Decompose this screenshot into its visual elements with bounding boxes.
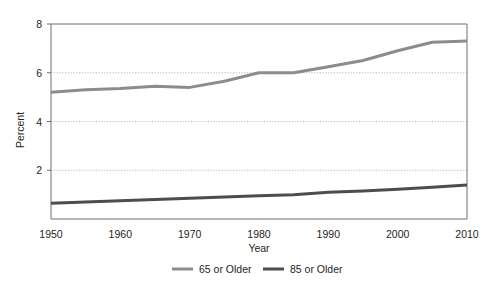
chart-canvas: 8 6 4 2 Percent 1950 1960 1970 1980 1990… xyxy=(0,0,496,283)
legend-label-65-or-older: 65 or Older xyxy=(199,263,252,275)
x-tick-label-1980: 1980 xyxy=(247,228,271,240)
y-tick-label-4: 4 xyxy=(36,116,42,128)
x-tick-label-1950: 1950 xyxy=(39,228,63,240)
y-tick-label-8: 8 xyxy=(36,18,42,30)
y-axis-title: Percent xyxy=(14,112,26,148)
x-tick-label-1970: 1970 xyxy=(178,228,202,240)
x-tick-label-2000: 2000 xyxy=(386,228,410,240)
x-tick-label-1990: 1990 xyxy=(317,228,341,240)
y-tick-label-6: 6 xyxy=(36,67,42,79)
y-tick-label-2: 2 xyxy=(36,164,42,176)
legend-label-85-or-older: 85 or Older xyxy=(290,263,343,275)
x-tick-label-2010: 2010 xyxy=(455,228,479,240)
x-tick-label-1960: 1960 xyxy=(109,228,133,240)
line-chart: 8 6 4 2 Percent 1950 1960 1970 1980 1990… xyxy=(0,0,496,283)
x-axis-title: Year xyxy=(248,242,270,254)
legend: 65 or Older 85 or Older xyxy=(172,263,343,275)
y-tick-marks xyxy=(47,24,51,170)
